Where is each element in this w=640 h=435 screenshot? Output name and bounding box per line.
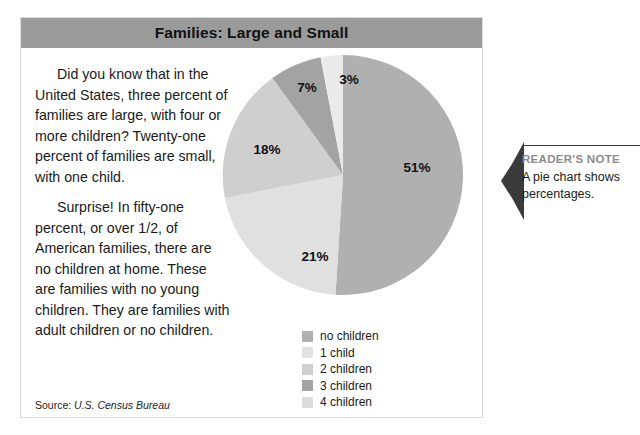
legend-item-4-children: 4 children <box>302 394 379 411</box>
legend-label-2-children: 2 children <box>320 362 372 376</box>
pie-label-2-children: 18% <box>253 142 280 157</box>
source-label: Source: <box>35 399 71 411</box>
legend-label-no-children: no children <box>320 329 379 343</box>
legend-swatch-1-child <box>302 347 313 358</box>
figure-panel: Families: Large and Small Did you know t… <box>20 17 483 418</box>
legend-label-3-children: 3 children <box>320 379 372 393</box>
legend-label-1-child: 1 child <box>320 346 355 360</box>
readers-note-callout: READER'S NOTE A pie chart shows percenta… <box>500 140 640 225</box>
pie-chart-svg: 51% 21% 18% 7% 3% <box>219 51 467 299</box>
panel-body: Did you know that in the United States, … <box>21 48 482 417</box>
readers-note-heading: READER'S NOTE <box>522 153 640 165</box>
legend-item-2-children: 2 children <box>302 361 379 378</box>
article-text-column: Did you know that in the United States, … <box>35 64 231 351</box>
article-paragraph-2: Surprise! In fifty-one percent, or over … <box>35 197 231 341</box>
pie-label-no-children: 51% <box>403 160 430 175</box>
readers-note-text: A pie chart shows percentages. <box>522 169 640 203</box>
legend-label-4-children: 4 children <box>320 395 372 409</box>
pie-chart: 51% 21% 18% 7% 3% no children 1 child <box>211 48 476 419</box>
legend-item-no-children: no children <box>302 328 379 345</box>
pie-legend: no children 1 child 2 children 3 childre… <box>302 328 379 411</box>
readers-note-body: READER'S NOTE A pie chart shows percenta… <box>522 145 640 203</box>
panel-header: Families: Large and Small <box>21 18 482 48</box>
legend-swatch-2-children <box>302 364 313 375</box>
legend-item-1-child: 1 child <box>302 345 379 362</box>
legend-swatch-4-children <box>302 397 313 408</box>
legend-item-3-children: 3 children <box>302 378 379 395</box>
pie-label-3-children: 7% <box>297 80 317 95</box>
pie-label-4-children: 3% <box>339 72 359 87</box>
pie-label-1-child: 21% <box>301 249 328 264</box>
source-value: U.S. Census Bureau <box>74 399 170 411</box>
article-paragraph-1: Did you know that in the United States, … <box>35 64 231 187</box>
pie-slice-no-children <box>335 55 463 295</box>
legend-swatch-3-children <box>302 380 313 391</box>
page-title: Families: Large and Small <box>155 24 349 42</box>
legend-swatch-no-children <box>302 331 313 342</box>
